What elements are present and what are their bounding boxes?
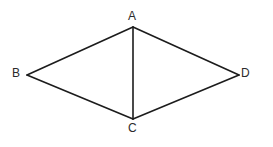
edge-group [27, 27, 239, 119]
geometry-figure: A B C D [0, 0, 273, 147]
edge-bc [27, 75, 133, 119]
vertex-label-b: B [12, 67, 20, 79]
vertex-label-c: C [128, 122, 137, 134]
edge-da [133, 27, 239, 75]
vertex-label-d: D [241, 67, 250, 79]
edge-cd [133, 75, 239, 119]
edge-ab [27, 27, 133, 75]
vertex-label-a: A [128, 10, 136, 22]
